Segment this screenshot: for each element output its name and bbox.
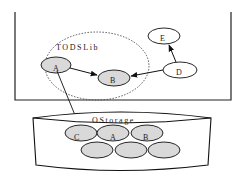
- storage-slot-c-label: C: [74, 133, 79, 142]
- edge-d-to-e: [169, 45, 176, 62]
- node-a[interactable]: A: [41, 57, 71, 73]
- todslib-label: TODSLib: [56, 43, 99, 52]
- node-b-label: B: [110, 76, 115, 85]
- diagram-canvas: TODSLib A B E D OStorage C A B: [0, 0, 240, 177]
- memory-frame: [15, 12, 231, 100]
- node-e-label: E: [160, 34, 165, 43]
- storage-slot-b-label: B: [143, 133, 148, 142]
- storage-slot-a-label: A: [110, 133, 116, 142]
- ostorage-label: OStorage: [92, 116, 135, 125]
- node-a-label: A: [53, 64, 59, 73]
- storage-slot-4[interactable]: [81, 142, 113, 158]
- node-e[interactable]: E: [148, 28, 180, 44]
- node-d-label: D: [176, 68, 182, 77]
- node-d[interactable]: D: [163, 62, 197, 78]
- storage-slot-5[interactable]: [115, 142, 147, 158]
- node-b[interactable]: B: [98, 70, 130, 86]
- edge-a-to-b: [70, 68, 97, 75]
- storage-slot-6[interactable]: [148, 142, 180, 158]
